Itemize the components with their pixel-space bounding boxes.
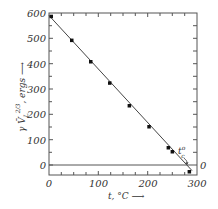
data-point <box>171 150 175 154</box>
svg-text:300: 300 <box>187 178 207 189</box>
plot-frame <box>49 13 197 175</box>
data-point <box>108 81 112 85</box>
svg-text:500: 500 <box>27 33 47 44</box>
data-point <box>89 60 93 64</box>
x-tick-labels: 0 100 200 300 <box>46 178 207 189</box>
data-point <box>128 104 132 108</box>
svg-text:200: 200 <box>137 178 158 189</box>
data-point <box>147 125 151 129</box>
y-tick-labels: 0 100 200 300 400 500 600 <box>26 8 47 171</box>
svg-text:0: 0 <box>46 178 53 189</box>
data-point <box>50 15 54 19</box>
svg-text:600: 600 <box>27 8 47 19</box>
svg-text:100: 100 <box>89 178 109 189</box>
data-point <box>167 146 171 150</box>
top-axis-ticks <box>61 13 184 17</box>
svg-text:200: 200 <box>26 109 47 120</box>
left-axis-ticks <box>49 26 53 165</box>
svg-text:300: 300 <box>27 84 47 95</box>
data-point <box>188 170 192 174</box>
svg-text:0: 0 <box>40 160 47 171</box>
tc-annotation: toc <box>178 144 189 165</box>
svg-text:100: 100 <box>27 135 47 146</box>
chart: toc 0 100 200 300 400 500 600 0 0 100 20… <box>0 0 218 209</box>
y-axis-label: γ V̄L2/3, ergs ⟶ <box>14 62 29 132</box>
right-zero-label: 0 <box>200 160 207 171</box>
svg-text:400: 400 <box>26 59 47 70</box>
right-axis-ticks <box>193 26 197 153</box>
bottom-axis-ticks <box>61 171 184 175</box>
x-axis-label: t, °C ⟶ <box>108 191 145 201</box>
data-point <box>70 39 74 43</box>
